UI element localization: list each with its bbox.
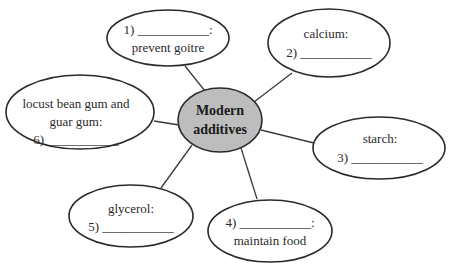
node-2-line1: calcium: bbox=[304, 26, 349, 41]
node-3-line1: starch: bbox=[363, 131, 398, 146]
node-1-line1: 1) ___________: bbox=[123, 22, 212, 37]
connector-5 bbox=[161, 145, 192, 188]
node-2-calcium: calcium: 2) ___________ bbox=[268, 9, 390, 77]
node-3-starch: starch: 3) ___________ bbox=[313, 117, 445, 179]
node-1-line2: prevent goitre bbox=[132, 40, 205, 55]
node-6-line1: locust bean gum and bbox=[22, 96, 130, 111]
node-6-line3: 6) ___________ bbox=[33, 132, 119, 147]
connector-1 bbox=[185, 66, 205, 91]
node-6-locust-bean-gum: locust bean gum and guar gum: 6) _______… bbox=[6, 75, 154, 149]
node-4-line1: 4) ___________: bbox=[225, 215, 314, 230]
node-4-line2: maintain food bbox=[234, 233, 307, 248]
node-4-maintain-food: 4) ___________: maintain food bbox=[208, 200, 332, 262]
node-5-line2: 5) ___________ bbox=[88, 219, 174, 234]
node-6-line2: guar gum: bbox=[49, 114, 102, 129]
node-3-line2: 3) ___________ bbox=[337, 150, 423, 165]
node-2-line2: 2) ___________ bbox=[286, 45, 372, 60]
node-1-prevent-goitre: 1) ___________: prevent goitre bbox=[107, 10, 229, 66]
connector-6 bbox=[154, 121, 179, 125]
mind-map-diagram: 1) ___________: prevent goitre calcium: … bbox=[0, 0, 454, 270]
connector-3 bbox=[261, 130, 314, 143]
center-title-line1: Modern bbox=[196, 103, 244, 118]
node-5-glycerol: glycerol: 5) ___________ bbox=[69, 185, 193, 247]
center-node-modern-additives: Modern additives bbox=[178, 88, 262, 152]
center-title-line2: additives bbox=[193, 122, 247, 137]
node-5-line1: glycerol: bbox=[108, 201, 154, 216]
connector-4 bbox=[241, 148, 257, 199]
connector-2 bbox=[254, 73, 292, 102]
